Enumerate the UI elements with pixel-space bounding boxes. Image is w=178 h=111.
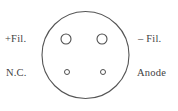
- pin-hole-upper-right: [97, 34, 107, 44]
- socket-drawing: [0, 0, 178, 111]
- pin-hole-upper-left: [61, 34, 71, 44]
- pin-hole-lower-left: [65, 70, 70, 75]
- pin-label-no-connection: N.C.: [6, 68, 27, 79]
- pin-label-anode: Anode: [137, 68, 166, 79]
- pin-label-minus-filament: – Fil.: [138, 34, 161, 45]
- pin-label-plus-filament: +Fil.: [5, 34, 26, 45]
- socket-outline-circle: [42, 12, 129, 99]
- tube-socket-pin-diagram: +Fil. – Fil. N.C. Anode: [0, 0, 178, 111]
- pin-hole-lower-right: [101, 70, 106, 75]
